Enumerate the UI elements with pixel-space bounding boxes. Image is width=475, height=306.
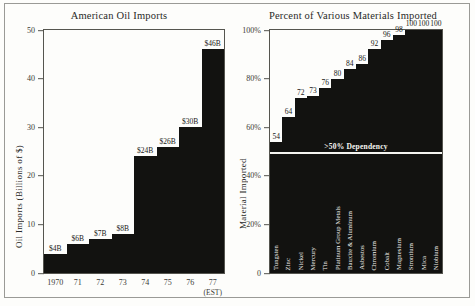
- y-axis-tick-label: 40: [27, 74, 35, 83]
- y-axis-tick-label: 50: [27, 26, 35, 35]
- bar-value-label: $7B: [93, 230, 108, 238]
- y-axis-label-right: Material Imported: [238, 81, 248, 229]
- plot-area-right: 020%40%60%80%100%>50% DependencyTungsten…: [269, 29, 443, 274]
- category-label: Zinc: [285, 258, 292, 270]
- plot-area-left: 01020304050$4B1970$6B71$7B72$8B73$24B74$…: [43, 29, 225, 274]
- bar: [89, 239, 112, 273]
- y-axis-tick-label: 0: [257, 269, 261, 278]
- bar: [44, 254, 67, 273]
- bar: [202, 49, 225, 273]
- y-axis-tick-label: 10: [27, 220, 35, 229]
- tick-mark: [264, 78, 270, 79]
- chart-title-left: American Oil Imports: [8, 10, 230, 21]
- bar-value-label: 96: [383, 31, 391, 39]
- tick-mark: [38, 78, 44, 79]
- bar-value-label: $6B: [70, 235, 85, 243]
- y-axis-tick-left: 20: [27, 171, 44, 181]
- x-axis-tick-left: 75: [164, 273, 172, 287]
- bar-value-label: $8B: [115, 225, 130, 233]
- bar: [179, 127, 202, 273]
- y-axis-tick-label: 80%: [246, 74, 261, 83]
- category-label: Cobalt: [383, 252, 390, 270]
- y-axis-tick-label: 20%: [246, 220, 261, 229]
- category-label: Strontium: [408, 243, 415, 270]
- y-axis-tick-label: 30: [27, 123, 35, 132]
- category-label: Magnesium: [396, 238, 403, 270]
- figure-root: American Oil Imports Oil Imports (Billio…: [0, 0, 475, 306]
- category-label: Mica: [420, 256, 427, 270]
- bar: [67, 244, 90, 273]
- bar: [295, 98, 307, 273]
- bar-value-label: 86: [358, 55, 366, 63]
- bar-value-label: 54: [272, 133, 280, 141]
- bar: [157, 147, 180, 273]
- chart-panel-oil-imports: American Oil Imports Oil Imports (Billio…: [8, 0, 230, 306]
- y-axis-label-left: Oil Imports (Billions of $): [14, 55, 24, 248]
- bar-value-label: $46B: [204, 40, 222, 48]
- x-axis-tick-left: 74: [141, 273, 149, 287]
- tick-mark: [264, 30, 270, 31]
- bar: [368, 49, 380, 273]
- y-axis-tick-right: 40%: [246, 171, 270, 181]
- x-axis-tick-left: 77(EST): [204, 273, 222, 297]
- category-label: Bauxite & Aluminum: [347, 211, 354, 270]
- bar-value-label: 76: [322, 79, 330, 87]
- bar: [356, 64, 368, 273]
- y-axis-tick-label: 0: [31, 269, 35, 278]
- y-axis-tick-left: 10: [27, 220, 44, 230]
- tick-mark: [38, 30, 44, 31]
- y-axis-tick-left: 40: [27, 74, 44, 84]
- bar-value-label: $30B: [181, 118, 199, 126]
- y-axis-tick-label: 20: [27, 172, 35, 181]
- bar-value-label: 92: [371, 40, 379, 48]
- bar-value-label: 64: [285, 108, 293, 116]
- tick-mark: [38, 127, 44, 128]
- chart-panel-materials: Percent of Various Materials Imported Ma…: [236, 0, 470, 306]
- y-axis-tick-left: 0: [31, 268, 44, 278]
- bar: [319, 88, 331, 273]
- y-axis-tick-label: 60%: [246, 123, 261, 132]
- tick-mark: [38, 176, 44, 177]
- bar-value-label: 80: [334, 70, 342, 78]
- category-label: Tin: [322, 261, 329, 270]
- tick-mark: [38, 224, 44, 225]
- bar-value-label: 72: [297, 89, 305, 97]
- x-axis-tick-left: 71: [74, 273, 82, 287]
- category-label: Tungsten: [273, 245, 280, 270]
- y-axis-tick-right: 80%: [246, 74, 270, 84]
- category-label: Asbestos: [359, 245, 366, 270]
- category-label: Niobium: [433, 246, 440, 270]
- dependency-threshold-line: [270, 152, 442, 154]
- bar: [381, 40, 393, 273]
- bar-value-label: 100: [430, 20, 441, 28]
- bar-value-label: 100: [406, 20, 417, 28]
- category-label: Platinum Group Metals: [334, 206, 341, 270]
- x-axis-tick-left: 76: [186, 273, 194, 287]
- x-axis-tick-left: 73: [119, 273, 127, 287]
- x-axis-tick-sublabel: (EST): [204, 288, 222, 297]
- bar-value-label: 73: [309, 87, 317, 95]
- category-label: Nickel: [297, 252, 304, 270]
- tick-mark: [264, 127, 270, 128]
- x-axis-tick-left: 72: [96, 273, 104, 287]
- bar-value-label: 100: [418, 20, 429, 28]
- bar-value-label: $24B: [136, 147, 154, 155]
- category-label: Mercury: [310, 247, 317, 270]
- bar-value-label: 98: [395, 26, 403, 34]
- y-axis-tick-right: 20%: [246, 220, 270, 230]
- bar-value-label: $4B: [48, 245, 63, 253]
- bar-value-label: $26B: [159, 138, 177, 146]
- y-axis-tick-left: 50: [27, 25, 44, 35]
- y-axis-tick-right: 0: [257, 268, 270, 278]
- y-axis-tick-right: 60%: [246, 122, 270, 132]
- y-axis-tick-label: 100%: [242, 26, 261, 35]
- category-label: Chromium: [371, 241, 378, 270]
- bar: [134, 156, 157, 273]
- bar-value-label: 84: [346, 60, 354, 68]
- x-axis-tick-left: 1970: [47, 273, 63, 287]
- y-axis-tick-left: 30: [27, 122, 44, 132]
- y-axis-tick-label: 40%: [246, 172, 261, 181]
- dependency-threshold-label: >50% Dependency: [270, 142, 442, 151]
- y-axis-tick-right: 100%: [242, 25, 270, 35]
- bar: [112, 234, 135, 273]
